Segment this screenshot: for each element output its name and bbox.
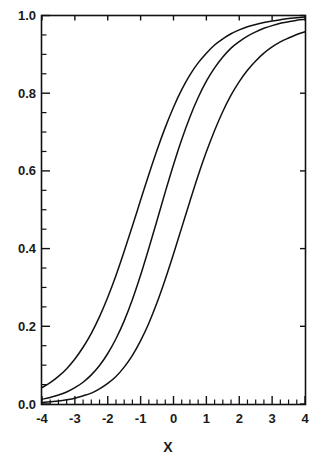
x-axis-title: X (163, 439, 173, 455)
sigmoid-line-chart: -4-3-2-101234 0.00.20.40.60.81.0 X (0, 0, 322, 464)
x-tick-label: -1 (135, 411, 147, 426)
x-tick-label: 1 (203, 411, 210, 426)
y-tick-label: 0.8 (18, 86, 36, 101)
x-axis-tick-labels: -4-3-2-101234 (36, 411, 309, 426)
x-tick-label: -2 (102, 411, 114, 426)
x-tick-label: 2 (236, 411, 243, 426)
y-tick-label: 0.2 (18, 319, 36, 334)
x-tick-label: 3 (269, 411, 276, 426)
x-tick-label: -4 (36, 411, 48, 426)
y-tick-label: 0.0 (18, 397, 36, 412)
chart-figure: -4-3-2-101234 0.00.20.40.60.81.0 X (0, 0, 322, 464)
x-tick-label: 4 (301, 411, 309, 426)
y-tick-label: 1.0 (18, 8, 36, 23)
y-tick-label: 0.6 (18, 163, 36, 178)
x-tick-label: -3 (69, 411, 81, 426)
x-tick-label: 0 (170, 411, 177, 426)
y-tick-label: 0.4 (18, 241, 37, 256)
chart-background (0, 0, 322, 464)
